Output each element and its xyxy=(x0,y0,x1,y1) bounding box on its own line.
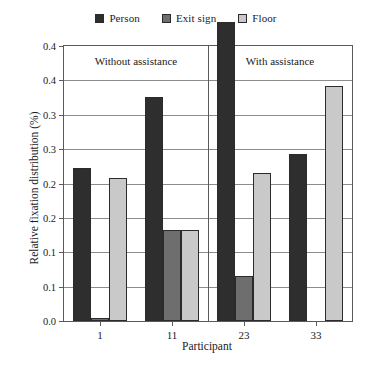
y-tick-label: 0.1 xyxy=(43,247,56,258)
bar-person xyxy=(217,22,235,321)
bar-group xyxy=(280,46,352,321)
bar-person xyxy=(145,97,163,321)
y-tick-label: 0.1 xyxy=(43,281,56,292)
bar-exit-sign xyxy=(235,276,253,321)
y-tick-label: 0.2 xyxy=(43,178,56,189)
x-tick-mark xyxy=(100,321,101,326)
y-tick-label: 0.2 xyxy=(43,212,56,223)
y-tick-label: 0.0 xyxy=(43,316,56,327)
bar-group xyxy=(208,46,280,321)
y-tick-label: 0.3 xyxy=(43,144,56,155)
bar-floor xyxy=(325,86,343,321)
legend-swatch-exit-sign xyxy=(162,14,171,23)
x-tick-mark xyxy=(172,321,173,326)
x-tick-mark xyxy=(244,321,245,326)
legend-swatch-floor xyxy=(238,14,247,23)
bar-person xyxy=(73,168,91,321)
bar-exit-sign xyxy=(163,230,181,321)
legend-label-floor: Floor xyxy=(252,13,276,24)
y-tick-label: 0.4 xyxy=(43,75,56,86)
bar-group xyxy=(136,46,208,321)
bar-groups xyxy=(64,46,352,321)
plot-area: 0.00.10.10.20.20.30.30.40.4 Without assi… xyxy=(63,45,353,322)
legend-item-person: Person xyxy=(95,13,140,24)
legend-label-person: Person xyxy=(109,13,140,24)
x-axis-title: Participant xyxy=(63,340,351,352)
legend-label-exit-sign: Exit sign xyxy=(176,13,216,24)
y-tick-mark xyxy=(59,321,64,322)
legend-item-floor: Floor xyxy=(238,13,276,24)
chart-figure: Person Exit sign Floor 0.00.10.10.20.20.… xyxy=(0,0,372,367)
legend-swatch-person xyxy=(95,14,104,23)
chart-legend: Person Exit sign Floor xyxy=(0,13,372,24)
y-tick-label: 0.4 xyxy=(43,41,56,52)
bar-person xyxy=(289,154,307,321)
bar-floor xyxy=(253,173,271,322)
y-tick-label: 0.3 xyxy=(43,109,56,120)
x-tick-mark xyxy=(316,321,317,326)
bar-floor xyxy=(109,178,127,321)
bar-group xyxy=(64,46,136,321)
y-axis-title: Relative fixation distribution (%) xyxy=(28,68,40,308)
legend-item-exit-sign: Exit sign xyxy=(162,13,216,24)
bar-floor xyxy=(181,230,199,321)
